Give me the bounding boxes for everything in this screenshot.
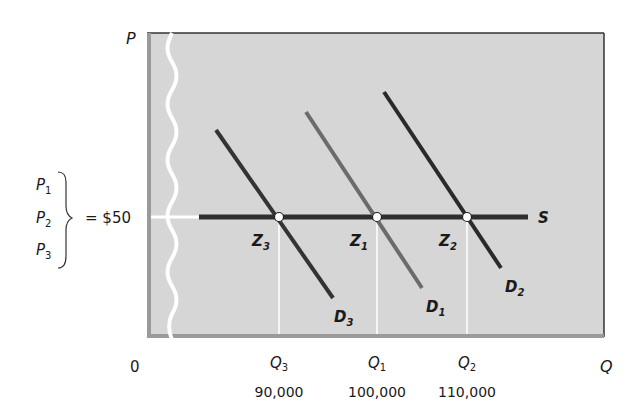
- x-tick-value-110000: 110,000: [438, 384, 496, 400]
- x-tick-value-100000: 100,000: [348, 384, 406, 400]
- price-label-p2: P2: [36, 209, 51, 229]
- price-value-label: = $50: [85, 209, 131, 227]
- equilibrium-point-z1: [373, 213, 382, 222]
- x-tick-q3: Q3: [270, 354, 288, 373]
- equilibrium-point-z3: [275, 213, 284, 222]
- equilibrium-point-z2: [463, 213, 472, 222]
- origin-label: 0: [130, 358, 140, 376]
- supply-label: S: [538, 209, 549, 227]
- x-tick-q1: Q1: [368, 354, 386, 373]
- x-tick-q2: Q2: [458, 354, 476, 373]
- supply-demand-chart: P Q 0 P1 P2 P3 = $50 Z3 Z1 Z2 S D3 D1 D2…: [0, 0, 627, 416]
- x-tick-value-90000: 90,000: [255, 384, 304, 400]
- price-brace: [58, 172, 72, 268]
- plot-area: [147, 33, 604, 337]
- price-label-p3: P3: [36, 241, 51, 261]
- x-axis-label: Q: [600, 357, 613, 376]
- price-label-p1: P1: [36, 176, 51, 196]
- y-axis-label: P: [126, 29, 136, 48]
